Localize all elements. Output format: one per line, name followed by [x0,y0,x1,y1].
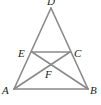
label-D: D [46,0,55,7]
label-B: B [90,84,97,96]
triangle-diagram: D E C F A B [0,0,101,105]
label-A: A [1,84,9,96]
label-E: E [17,47,25,59]
label-C: C [74,47,82,59]
label-F: F [44,68,52,80]
